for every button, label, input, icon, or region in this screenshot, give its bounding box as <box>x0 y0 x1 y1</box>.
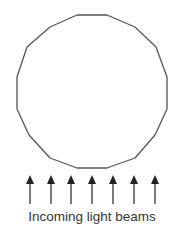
circular-polygon-object <box>17 15 167 168</box>
up-arrow-icon <box>130 175 138 204</box>
light-beam-diagram: Incoming light beams <box>0 0 184 234</box>
diagram-caption: Incoming light beams <box>28 209 156 224</box>
incoming-light-beam-arrows <box>26 175 159 204</box>
up-arrow-icon <box>151 175 159 204</box>
up-arrow-icon <box>47 175 55 204</box>
up-arrow-icon <box>67 175 75 204</box>
up-arrow-icon <box>88 175 96 204</box>
up-arrow-icon <box>26 175 34 204</box>
up-arrow-icon <box>109 175 117 204</box>
